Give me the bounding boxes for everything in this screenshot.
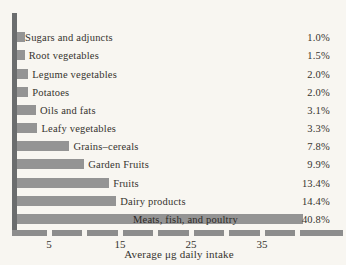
bar xyxy=(17,69,28,79)
category-label: Garden Fruits xyxy=(88,159,149,170)
x-axis-line xyxy=(12,230,343,236)
category-label: Sugars and adjuncts xyxy=(25,32,113,43)
category-label: Oils and fats xyxy=(40,105,96,116)
bar xyxy=(17,87,28,97)
x-axis-tick-gap xyxy=(189,229,194,237)
bar xyxy=(17,32,25,42)
category-label: Dairy products xyxy=(120,196,186,207)
x-axis-tick-gap xyxy=(47,229,52,237)
x-axis-tick-gap xyxy=(260,229,265,237)
x-tick-label: 5 xyxy=(37,238,61,250)
x-axis-tick-gap xyxy=(224,229,229,237)
x-axis-tick-gap xyxy=(153,229,158,237)
category-label: Potatoes xyxy=(32,87,69,98)
category-label: Leafy vegetables xyxy=(41,123,116,134)
x-axis-tick-gap xyxy=(118,229,123,237)
percent-label: 40.8% xyxy=(284,214,330,225)
percent-label: 9.9% xyxy=(284,159,330,170)
bar xyxy=(17,105,36,115)
category-label: Root vegetables xyxy=(29,50,99,61)
category-label: Fruits xyxy=(113,178,139,189)
bar xyxy=(17,178,109,188)
percent-label: 1.5% xyxy=(284,50,330,61)
x-axis-tick-gap xyxy=(82,229,87,237)
bar xyxy=(17,196,116,206)
bar xyxy=(17,159,84,169)
bar xyxy=(17,123,37,133)
percent-label: 13.4% xyxy=(284,178,330,189)
x-axis-title: Average μg daily intake xyxy=(93,248,265,261)
category-label: Meats, fish, and poultry xyxy=(133,214,238,225)
percent-label: 2.0% xyxy=(284,87,330,98)
percent-label: 14.4% xyxy=(284,196,330,207)
percent-label: 7.8% xyxy=(284,141,330,152)
bar xyxy=(17,50,25,60)
bar-chart-figure: Sugars and adjuncts1.0%Root vegetables1.… xyxy=(0,0,346,265)
category-label: Legume vegetables xyxy=(32,69,117,80)
bar xyxy=(17,141,69,151)
category-label: Grains–cereals xyxy=(73,141,138,152)
percent-label: 3.1% xyxy=(284,105,330,116)
x-axis-tick-gap xyxy=(295,229,300,237)
percent-label: 2.0% xyxy=(284,69,330,80)
percent-label: 3.3% xyxy=(284,123,330,134)
percent-label: 1.0% xyxy=(284,32,330,43)
